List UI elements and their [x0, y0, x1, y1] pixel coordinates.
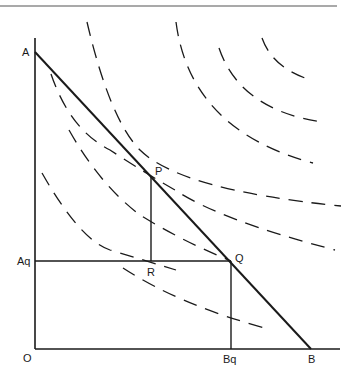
label-q: Q: [235, 252, 244, 264]
curve-7: [42, 173, 176, 270]
label-a: A: [22, 46, 30, 58]
curve-5: [51, 74, 335, 250]
label-aq: Aq: [17, 255, 30, 267]
label-b: B: [308, 353, 315, 365]
diagram-canvas: A P R Q Aq O Bq B: [0, 0, 352, 385]
indifference-curves: [42, 22, 341, 328]
label-r: R: [147, 266, 155, 278]
budget-line: [35, 52, 311, 349]
curve-1: [262, 38, 305, 78]
label-bq: Bq: [223, 353, 236, 365]
label-o: O: [23, 352, 32, 364]
curve-2: [219, 48, 322, 122]
label-p: P: [155, 165, 162, 177]
curve-3: [176, 22, 313, 163]
curve-4: [87, 22, 341, 206]
curve-6: [69, 130, 231, 261]
